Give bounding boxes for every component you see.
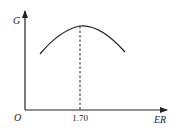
origin-label: O (14, 112, 21, 123)
x-axis-label: ER (153, 114, 166, 125)
y-axis-label: G (13, 15, 20, 26)
x-tick-label: 1.70 (72, 113, 88, 123)
chart: G O 1.70 ER (0, 0, 180, 132)
curve (40, 26, 125, 54)
